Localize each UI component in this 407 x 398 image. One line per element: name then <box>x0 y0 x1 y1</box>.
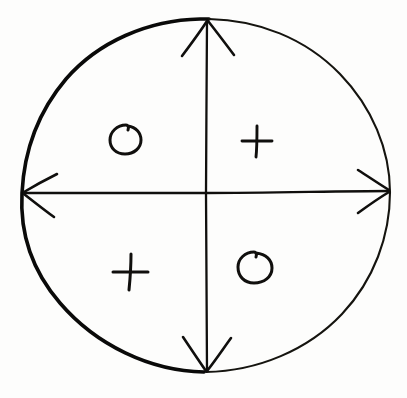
quadrant-mark-top-left <box>110 125 141 154</box>
circle-arc-upper-left <box>22 19 209 372</box>
circle-arc-lower-right <box>206 19 390 372</box>
quadrant-mark-bottom-right <box>238 252 272 283</box>
circle-mark-icon <box>238 252 272 283</box>
diagram-canvas: Hand-drawn circle with crossed double-he… <box>0 0 407 398</box>
arrowhead-left <box>24 174 57 217</box>
quadrant-mark-bottom-left <box>113 254 148 290</box>
quadrant-mark-top-right <box>242 126 272 157</box>
hand-drawn-diagram <box>0 0 407 398</box>
vertical-axis-line <box>206 22 207 371</box>
circle-mark-icon <box>110 125 141 154</box>
vertical-axis <box>182 21 234 371</box>
